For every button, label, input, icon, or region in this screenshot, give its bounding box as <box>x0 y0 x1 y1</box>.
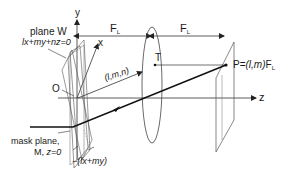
offset-label: −(lx+my) <box>72 157 107 166</box>
mask-plane-label-line1: mask plane, <box>11 137 60 146</box>
focal-length-label-2: FL <box>180 23 190 35</box>
y-axis-label: y <box>75 8 80 18</box>
plane-w-title: plane W <box>30 27 67 37</box>
lens-point-label: T <box>155 53 161 63</box>
offset-tick-right <box>88 147 94 150</box>
plane-w-pointer <box>48 49 66 58</box>
point-p-label: P=(l,m)FL <box>233 60 275 71</box>
focal-plane <box>216 42 234 152</box>
x-axis-label: x <box>98 38 103 48</box>
focal-length-label-1: FL <box>110 23 120 35</box>
x-axis <box>77 44 98 98</box>
lens <box>142 27 162 143</box>
mask-pointer <box>58 131 70 133</box>
plane-w-equation: lx+my+nz=0 <box>22 38 71 47</box>
origin-pointer <box>62 90 74 96</box>
z-axis-label: z <box>259 92 265 103</box>
point-t <box>154 64 157 67</box>
mask-plane-label-line2: M, z=0 <box>34 148 61 157</box>
origin-label: O <box>52 84 60 94</box>
